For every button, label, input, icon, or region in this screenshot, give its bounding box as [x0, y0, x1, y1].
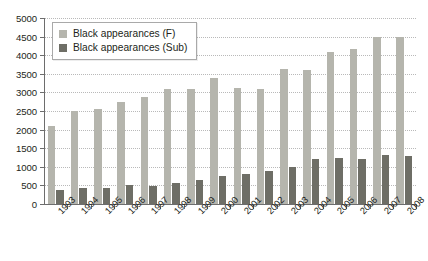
bar-2004-black-appearances-sub — [312, 159, 320, 204]
bar-2003-black-appearances-sub — [289, 167, 297, 204]
y-tick-mark-500 — [40, 185, 44, 186]
chart-legend: Black appearances (F) Black appearances … — [52, 22, 197, 60]
legend-label-black-appearances-f: Black appearances (F) — [73, 29, 176, 39]
bar-1999-black-appearances-f — [187, 89, 195, 204]
y-axis-line — [44, 18, 45, 205]
y-tick-mark-0 — [40, 204, 44, 205]
bar-2006-black-appearances-f — [350, 49, 358, 204]
y-tick-label-4000: 4000 — [16, 50, 37, 61]
bar-group-2001 — [230, 18, 253, 204]
bar-1996-black-appearances-f — [117, 102, 125, 204]
y-tick-label-2500: 2500 — [16, 106, 37, 117]
bar-2003-black-appearances-f — [280, 69, 288, 204]
y-tick-mark-3500 — [40, 74, 44, 75]
y-tick-mark-1000 — [40, 167, 44, 168]
y-tick-mark-4500 — [40, 37, 44, 38]
legend-item-black-appearances-f: Black appearances (F) — [59, 27, 187, 41]
bar-group-2000 — [207, 18, 230, 204]
y-tick-label-0: 0 — [32, 199, 37, 210]
bar-2006-black-appearances-sub — [358, 159, 366, 204]
bar-group-2007 — [370, 18, 393, 204]
bar-1997-black-appearances-f — [141, 97, 149, 204]
bar-2004-black-appearances-f — [303, 70, 311, 204]
bar-group-2004 — [300, 18, 323, 204]
y-tick-label-500: 500 — [21, 180, 37, 191]
y-tick-label-3000: 3000 — [16, 87, 37, 98]
y-tick-label-3500: 3500 — [16, 69, 37, 80]
y-tick-label-5000: 5000 — [16, 13, 37, 24]
bar-2007-black-appearances-sub — [382, 155, 390, 204]
y-tick-mark-2500 — [40, 111, 44, 112]
bar-group-2006 — [346, 18, 369, 204]
bar-group-2008 — [393, 18, 416, 204]
bar-chart: 0500100015002000250030003500400045005000… — [0, 0, 428, 261]
bar-1994-black-appearances-f — [71, 111, 79, 204]
y-tick-label-1500: 1500 — [16, 143, 37, 154]
bar-1993-black-appearances-f — [48, 126, 56, 204]
y-tick-mark-2000 — [40, 130, 44, 131]
bar-2005-black-appearances-sub — [335, 158, 343, 204]
legend-swatch-dark-icon — [59, 44, 67, 52]
bar-2002-black-appearances-f — [257, 89, 265, 204]
bar-2001-black-appearances-f — [234, 88, 242, 204]
y-tick-mark-4000 — [40, 55, 44, 56]
legend-label-black-appearances-sub: Black appearances (Sub) — [73, 43, 187, 53]
legend-swatch-light-icon — [59, 30, 67, 38]
bar-group-2005 — [323, 18, 346, 204]
y-tick-label-1000: 1000 — [16, 162, 37, 173]
bar-2001-black-appearances-sub — [242, 174, 250, 204]
bar-group-2002 — [253, 18, 276, 204]
y-tick-mark-3000 — [40, 92, 44, 93]
bar-2007-black-appearances-f — [373, 37, 381, 204]
bar-2000-black-appearances-f — [210, 78, 218, 204]
bar-2008-black-appearances-sub — [405, 156, 413, 204]
bar-1998-black-appearances-f — [164, 89, 172, 204]
bar-2000-black-appearances-sub — [219, 176, 227, 204]
legend-item-black-appearances-sub: Black appearances (Sub) — [59, 41, 187, 55]
y-tick-mark-5000 — [40, 18, 44, 19]
bar-2008-black-appearances-f — [396, 37, 404, 204]
bar-1995-black-appearances-f — [94, 109, 102, 204]
y-tick-label-2000: 2000 — [16, 125, 37, 136]
bar-2002-black-appearances-sub — [265, 171, 273, 204]
y-tick-mark-1500 — [40, 148, 44, 149]
y-tick-label-4500: 4500 — [16, 32, 37, 43]
bar-group-2003 — [277, 18, 300, 204]
bar-1999-black-appearances-sub — [196, 180, 204, 204]
bar-2005-black-appearances-f — [327, 52, 335, 204]
